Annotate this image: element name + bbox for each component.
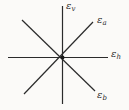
- label-epsilon-v: εv: [66, 1, 75, 13]
- diagram-canvas: [0, 0, 129, 110]
- center-dot: [61, 56, 65, 60]
- label-epsilon-a: εa: [97, 15, 107, 27]
- epsilon-subscript: b: [102, 94, 106, 102]
- epsilon-subscript: a: [102, 19, 106, 27]
- label-epsilon-h: εh: [111, 49, 121, 61]
- epsilon-subscript: v: [71, 5, 75, 13]
- epsilon-subscript: h: [116, 53, 121, 61]
- label-epsilon-b: εb: [97, 90, 107, 102]
- axes-star-diagram: εv εa εh εb: [0, 0, 129, 110]
